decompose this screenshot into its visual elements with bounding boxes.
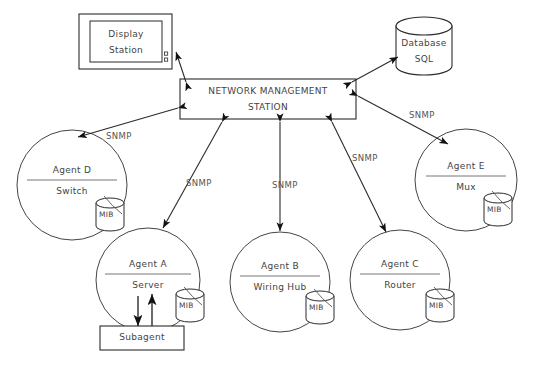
agent-a-mib-label: MIB bbox=[179, 301, 194, 310]
snmp-label-agent-d: SNMP bbox=[106, 131, 132, 141]
agent-b-mib-label: MIB bbox=[309, 303, 324, 312]
link-snmp-agent-e bbox=[358, 96, 448, 144]
link-nms-database bbox=[352, 57, 398, 82]
agent-b-name: Agent B bbox=[230, 261, 330, 271]
agent-a-role: Server bbox=[98, 280, 198, 290]
network-management-diagram: Display Station Database SQL NETWORK MAN… bbox=[0, 0, 539, 369]
link-snmp-agent-c bbox=[332, 122, 386, 232]
nms-label-line1: NETWORK MANAGEMENT bbox=[180, 86, 356, 96]
subagent-label: Subagent bbox=[100, 332, 184, 342]
snmp-label-agent-a: SNMP bbox=[186, 178, 212, 188]
agent-a-name: Agent A bbox=[98, 259, 198, 269]
link-nms-display-station bbox=[176, 52, 186, 82]
snmp-label-agent-e: SNMP bbox=[409, 110, 435, 120]
nms-box-shape bbox=[180, 79, 356, 119]
link-snmp-agent-a bbox=[163, 122, 222, 228]
agent-c-role: Router bbox=[350, 280, 450, 290]
agent-c-mib-label: MIB bbox=[429, 301, 444, 310]
agent-d-name: Agent D bbox=[22, 165, 122, 175]
database-label-line2: SQL bbox=[396, 54, 452, 64]
snmp-label-agent-b: SNMP bbox=[272, 180, 298, 190]
database-label-line1: Database bbox=[396, 38, 452, 48]
agent-e-role: Mux bbox=[416, 182, 516, 192]
agent-b-role: Wiring Hub bbox=[230, 282, 330, 292]
agent-e-name: Agent E bbox=[416, 161, 516, 171]
snmp-label-agent-c: SNMP bbox=[352, 153, 378, 163]
display-station-label-line1: Display bbox=[90, 29, 162, 39]
agent-e-mib-label: MIB bbox=[487, 205, 502, 214]
agent-d-mib-label: MIB bbox=[99, 210, 114, 219]
display-station-shape bbox=[79, 14, 172, 69]
agent-d-role: Switch bbox=[22, 186, 122, 196]
agent-c-name: Agent C bbox=[350, 259, 450, 269]
nms-label-line2: STATION bbox=[180, 102, 356, 112]
display-station-label-line2: Station bbox=[90, 45, 162, 55]
